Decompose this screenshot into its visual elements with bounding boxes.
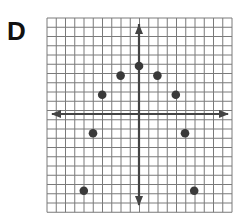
- data-point: [181, 129, 190, 138]
- coordinate-grid-chart: [0, 0, 242, 214]
- data-point: [116, 71, 125, 80]
- axes: [51, 24, 229, 206]
- data-point: [98, 91, 107, 100]
- arrow-down-icon: [135, 196, 143, 206]
- data-point: [153, 71, 162, 80]
- arrow-up-icon: [135, 24, 143, 34]
- data-point: [172, 91, 181, 100]
- data-point: [80, 187, 89, 196]
- arrow-right-icon: [219, 110, 229, 118]
- data-point: [135, 62, 144, 71]
- data-point: [89, 129, 98, 138]
- data-point: [190, 187, 199, 196]
